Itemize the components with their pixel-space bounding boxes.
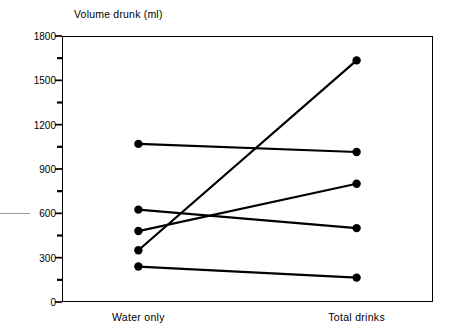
chart-page: Volume drunk (ml) 1800150012009006003000… bbox=[0, 0, 451, 335]
y-axis-ticks bbox=[55, 36, 62, 302]
plot-area-frame bbox=[62, 36, 433, 302]
y-axis-tick-label: 300 bbox=[8, 252, 56, 263]
y-axis-tick-label: 1800 bbox=[8, 31, 56, 42]
y-axis-tick-label: 1200 bbox=[8, 119, 56, 130]
y-axis-tick-label: 600 bbox=[8, 208, 56, 219]
y-axis-labels: 1800150012009006003000 bbox=[6, 0, 56, 335]
x-axis-tick-label: Total drinks bbox=[328, 311, 385, 323]
y-axis-tick-label: 1500 bbox=[8, 75, 56, 86]
y-axis-tick-label: 0 bbox=[8, 297, 56, 308]
chart-title: Volume drunk (ml) bbox=[74, 8, 163, 20]
x-axis-tick-label: Water only bbox=[112, 311, 165, 323]
y-axis-tick-label: 900 bbox=[8, 164, 56, 175]
